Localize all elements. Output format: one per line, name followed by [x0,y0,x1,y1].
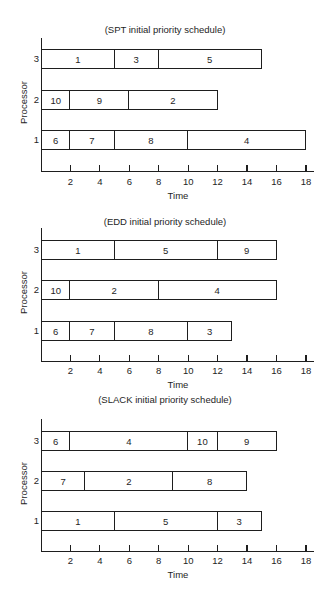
x-tick-label: 8 [149,555,169,566]
x-tick [70,355,71,361]
x-tick-label: 8 [149,176,169,187]
job-bar: 3 [115,49,159,69]
job-bar: 7 [70,130,114,150]
x-tick [305,355,306,361]
x-tick [305,165,306,171]
processor-label: 1 [30,134,39,145]
x-tick [158,545,159,551]
x-tick [158,165,159,171]
job-bar: 4 [188,130,306,150]
chart-title: (EDD initial priority schedule) [0,216,330,228]
x-tick-label: 14 [237,176,257,187]
chart-title: (SLACK initial priority schedule) [0,394,330,406]
x-axis-label: Time [150,569,206,580]
processor-label: 2 [30,284,39,295]
x-tick-label: 14 [237,555,257,566]
job-bar: 10 [188,431,217,451]
x-tick-label: 2 [60,365,80,376]
processor-label: 1 [30,325,39,336]
job-bar: 1 [41,49,115,69]
x-tick [217,545,218,551]
x-tick-label: 8 [149,365,169,376]
job-bar: 2 [129,90,217,110]
x-axis [41,171,314,172]
job-bar: 9 [218,240,277,260]
x-tick [246,545,247,551]
job-bar: 4 [70,431,188,451]
x-tick [129,355,130,361]
x-tick-label: 16 [267,555,287,566]
job-bar: 9 [70,90,129,110]
processor-label: 2 [30,94,39,105]
job-bar: 5 [115,511,218,531]
x-tick [276,355,277,361]
job-bar: 5 [159,49,262,69]
x-tick [246,165,247,171]
job-bar: 3 [218,511,262,531]
x-tick-label: 4 [90,176,110,187]
x-tick-label: 10 [178,555,198,566]
x-tick [276,545,277,551]
x-tick [188,545,189,551]
processor-label: 3 [30,53,39,64]
x-tick [70,165,71,171]
x-tick-label: 2 [60,555,80,566]
processor-label: 3 [30,244,39,255]
job-bar: 8 [115,130,189,150]
x-tick-label: 12 [208,176,228,187]
x-tick-label: 18 [296,555,316,566]
x-tick [246,355,247,361]
x-tick [99,165,100,171]
job-bar: 2 [70,280,158,300]
x-tick-label: 10 [178,365,198,376]
job-bar: 1 [41,511,115,531]
job-bar: 10 [41,90,70,110]
job-bar: 6 [41,321,70,341]
job-bar: 4 [159,280,277,300]
x-tick-label: 12 [208,555,228,566]
x-tick-label: 4 [90,365,110,376]
x-tick [129,165,130,171]
x-tick-label: 18 [296,365,316,376]
job-bar: 8 [115,321,189,341]
job-bar: 5 [115,240,218,260]
x-axis-label: Time [150,379,206,390]
job-bar: 6 [41,130,70,150]
x-tick [276,165,277,171]
x-tick-label: 10 [178,176,198,187]
processor-label: 3 [30,435,39,446]
x-tick-label: 6 [119,176,139,187]
processor-label: 2 [30,475,39,486]
x-tick [158,355,159,361]
x-tick-label: 6 [119,365,139,376]
job-bar: 1 [41,240,115,260]
x-axis [41,361,314,362]
x-tick-label: 4 [90,555,110,566]
x-tick [217,355,218,361]
x-tick-label: 6 [119,555,139,566]
processor-label: 1 [30,515,39,526]
x-tick [70,545,71,551]
y-axis-label: Processor [18,454,29,514]
x-tick [188,165,189,171]
x-tick [129,545,130,551]
x-axis [41,551,314,552]
job-bar: 7 [41,471,85,491]
x-tick [217,165,218,171]
x-tick-label: 14 [237,365,257,376]
x-tick-label: 12 [208,365,228,376]
job-bar: 2 [85,471,173,491]
x-axis-label: Time [150,190,206,201]
x-tick-label: 16 [267,176,287,187]
x-tick-label: 2 [60,176,80,187]
x-tick [99,545,100,551]
x-tick [305,545,306,551]
x-tick-label: 16 [267,365,287,376]
job-bar: 7 [70,321,114,341]
x-tick-label: 18 [296,176,316,187]
y-axis-label: Processor [18,73,29,133]
x-tick [188,355,189,361]
job-bar: 3 [188,321,232,341]
job-bar: 8 [173,471,247,491]
chart-title: (SPT initial priority schedule) [0,24,330,36]
